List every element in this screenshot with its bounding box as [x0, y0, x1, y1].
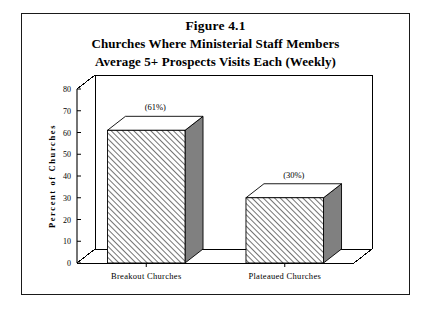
y-axis-tick-label: 70	[63, 107, 71, 116]
bar-front-face	[107, 130, 185, 263]
y-axis-tick-label: 0	[67, 259, 71, 268]
bar-group: (30%)	[246, 170, 342, 263]
y-axis-tick-label: 40	[63, 172, 71, 181]
bar-value-label: (61%)	[145, 102, 166, 112]
y-axis-tick-label: 30	[63, 194, 71, 203]
figure-root: Figure 4.1 Churches Where Ministerial St…	[0, 0, 432, 310]
y-axis-tick-label: 20	[63, 216, 71, 225]
y-axis-tick-label: 50	[63, 150, 71, 159]
y-axis-tick-label: 80	[63, 85, 71, 94]
bar-front-face	[246, 198, 324, 263]
bar-chart: 01020304050607080Percent of Churches(61%…	[21, 13, 410, 295]
bar-side-face	[185, 116, 203, 263]
y-axis-title: Percent of Churches	[47, 124, 57, 228]
bar-group: (61%)	[107, 102, 203, 263]
y-axis-tick-label: 60	[63, 129, 71, 138]
bar-value-label: (30%)	[283, 170, 304, 180]
x-axis-category-label: Breakout Churches	[111, 271, 182, 281]
x-axis-category-label: Plateaued Churches	[248, 271, 321, 281]
y-axis-tick-label: 10	[63, 237, 71, 246]
